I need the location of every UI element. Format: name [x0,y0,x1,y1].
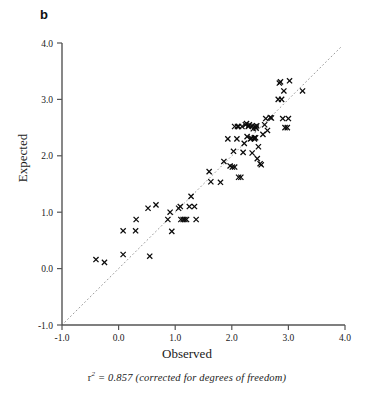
chart-caption: r2 = 0.857 (corrected for degrees of fre… [0,370,374,383]
x-tick-label: 0.0 [113,333,125,343]
data-point [300,88,305,93]
data-point [231,149,236,154]
y-tick-label: 2.0 [41,151,53,161]
x-tick-label: 1.0 [169,333,181,343]
data-point [145,206,150,211]
data-point [255,156,260,161]
y-tick-label: 1.0 [41,208,53,218]
data-point [263,116,268,121]
data-points [93,78,305,265]
data-point [121,252,126,257]
data-point [147,254,152,259]
data-point [165,217,170,222]
data-point [194,217,199,222]
data-point [208,179,213,184]
data-point [242,141,247,146]
data-point [207,169,212,174]
data-point [250,150,255,155]
y-tick-label: 0.0 [41,264,53,274]
reference-line [62,48,340,325]
data-point [286,116,291,121]
data-point [93,257,98,262]
x-tick-label: 3.0 [282,333,294,343]
y-tick-label: 4.0 [41,39,53,49]
data-point [225,136,230,141]
caption-text: = 0.857 (corrected for degrees of freedo… [98,372,286,383]
scatter-plot: -1.00.01.02.03.04.04.03.02.01.00.0-1.0 [0,0,374,398]
data-point [280,116,285,121]
data-point [287,78,292,83]
x-axis-label: Observed [0,346,374,362]
data-point [265,128,270,133]
axis-tick-labels: -1.00.01.02.03.04.04.03.02.01.00.0-1.0 [38,39,351,344]
y-tick-label: -1.0 [38,321,53,331]
y-axis-label: Expected [15,113,31,203]
data-point [234,136,239,141]
data-point [121,228,126,233]
x-tick-label: 4.0 [339,333,351,343]
data-point [168,210,173,215]
data-point [281,88,286,93]
caption-exponent: 2 [91,370,95,378]
data-point [279,97,284,102]
data-point [178,204,183,209]
figure-panel-b: b -1.00.01.02.03.04.04.03.02.01.00.0-1.0… [0,0,374,398]
data-point [218,180,223,185]
data-point [134,217,139,222]
data-point [241,150,246,155]
data-point [102,260,107,265]
data-point [169,229,174,234]
data-point [256,144,261,149]
data-point [153,202,158,207]
y-tick-label: 3.0 [41,95,53,105]
x-tick-label: -1.0 [54,333,69,343]
x-tick-label: 2.0 [226,333,238,343]
data-point [188,194,193,199]
data-point [187,204,192,209]
data-point [133,228,138,233]
data-point [192,204,197,209]
